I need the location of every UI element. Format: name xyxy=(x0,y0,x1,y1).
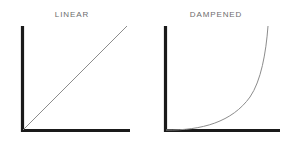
dampened-plot xyxy=(144,0,288,146)
panel-linear: LINEAR xyxy=(0,0,144,146)
comparison-figure: LINEAR DAMPENED xyxy=(0,0,288,146)
linear-curve xyxy=(23,26,127,130)
dampened-curve xyxy=(166,26,268,130)
dampened-axes xyxy=(166,26,281,131)
linear-plot xyxy=(0,0,144,146)
panel-dampened: DAMPENED xyxy=(144,0,288,146)
